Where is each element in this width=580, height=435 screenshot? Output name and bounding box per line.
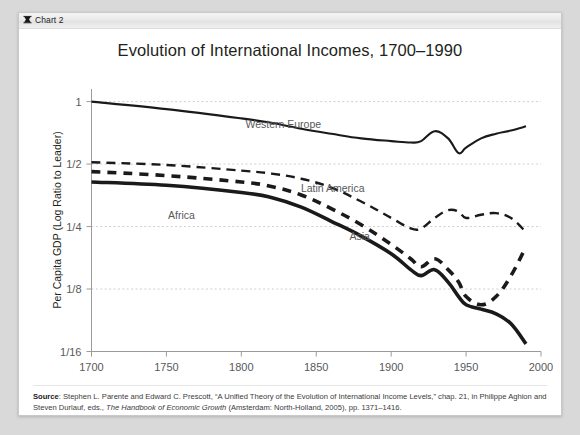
x-axis-ticks: 1700175018001850190019502000 [79,352,553,373]
series-lines [92,102,527,344]
y-tick-label: 1/8 [66,283,81,295]
screenshot-root: Chart 2 Evolution of International Incom… [0,0,580,435]
source-prefix: Source [33,392,59,401]
y-axis-title: Per Capita GDP (Log Ratio to Leader) [51,131,63,308]
x-tick-label: 1750 [154,361,178,373]
series-label-africa: Africa [168,209,195,221]
x-tick-label: 1900 [379,361,403,373]
x-tick-label: 1800 [229,361,253,373]
source-divider [33,385,547,386]
x-tick-label: 1850 [304,361,328,373]
series-label-western-europe: Western Europe [245,118,321,130]
x-tick-label: 2000 [529,361,553,373]
series-line-africa [92,182,527,344]
chart-window: Chart 2 Evolution of International Incom… [18,12,562,416]
window-titlebar: Chart 2 [19,13,561,29]
y-axis-ticks: 11/21/41/81/16 [60,96,91,358]
y-tick-label: 1/16 [60,346,81,358]
plot-area: 11/21/41/81/16 1700175018001850190019502… [19,29,561,415]
series-label-latin-america: Latin America [301,182,365,194]
chart-body: Evolution of International Incomes, 1700… [19,29,561,415]
x-tick-label: 1950 [454,361,478,373]
source-text-2: (Amsterdam: North-Holland, 2005), pp. 13… [226,403,401,412]
x-tick-label: 1700 [79,361,103,373]
series-line-latin-america [92,162,527,232]
window-title-label: Chart 2 [35,16,64,25]
chart-svg: 11/21/41/81/16 1700175018001850190019502… [19,29,561,415]
y-tick-label: 1/4 [66,221,81,233]
series-label-asia: Asia [349,230,370,242]
gridlines [92,102,542,352]
source-book-title: The Handbook of Economic Growth [106,403,226,412]
y-tick-label: 1 [75,96,81,108]
chart-bookmark-icon [22,15,33,26]
source-note: Source: Stephen L. Parente and Edward C.… [33,391,549,413]
y-tick-label: 1/2 [66,158,81,170]
